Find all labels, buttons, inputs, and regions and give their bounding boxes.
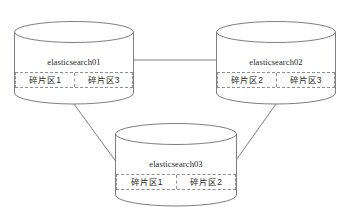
shard-strip-elasticsearch02: 碎片区2 碎片区3 [217,72,335,88]
shard-cell[interactable]: 碎片区3 [74,73,132,87]
node-label-elasticsearch02: elasticsearch02 [216,57,336,67]
node-elasticsearch01[interactable]: elasticsearch01 碎片区1 碎片区3 [14,21,134,104]
node-label-elasticsearch03: elasticsearch03 [115,159,237,169]
shard-cell[interactable]: 碎片区3 [276,73,334,87]
node-elasticsearch03[interactable]: elasticsearch03 碎片区1 碎片区2 [115,123,237,206]
cluster-diagram: elasticsearch01 碎片区1 碎片区3 elasticsearch0… [0,0,349,222]
shard-cell[interactable]: 碎片区2 [176,175,235,189]
shard-cell[interactable]: 碎片区1 [16,73,74,87]
shard-cell[interactable]: 碎片区2 [218,73,276,87]
edge-es02-es03 [234,104,276,163]
edge-es01-es03 [74,104,117,163]
shard-strip-elasticsearch01: 碎片区1 碎片区3 [15,72,133,88]
node-elasticsearch02[interactable]: elasticsearch02 碎片区2 碎片区3 [216,21,336,104]
node-label-elasticsearch01: elasticsearch01 [14,57,134,67]
shard-strip-elasticsearch03: 碎片区1 碎片区2 [116,174,236,190]
shard-cell[interactable]: 碎片区1 [117,175,176,189]
